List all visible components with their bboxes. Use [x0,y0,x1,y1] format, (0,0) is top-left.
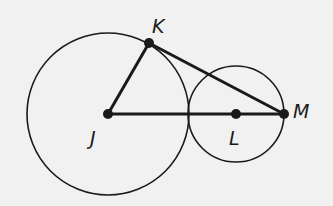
label-j: J [86,127,96,149]
point-m [279,109,289,119]
point-j [103,109,113,119]
point-k [144,38,154,48]
geometry-figure: JKLM [0,0,333,206]
segment-jk [108,43,149,114]
label-l: L [229,127,240,149]
label-m: M [293,100,309,122]
segment-km [149,43,284,114]
points [103,38,289,119]
segments [108,43,284,114]
label-k: K [152,15,166,37]
labels: JKLM [86,15,309,149]
diagram-canvas: JKLM [0,0,333,206]
point-l [231,109,241,119]
